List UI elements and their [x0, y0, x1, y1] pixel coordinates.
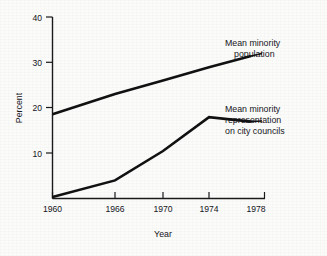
y-tick-label-10: 10 — [32, 149, 42, 159]
y-tick-label-40: 40 — [32, 13, 42, 23]
y-tick-label-30: 30 — [32, 58, 42, 68]
population-annotation-line-2: population — [234, 49, 275, 59]
council-annotation-line-3: on city councils — [225, 126, 285, 136]
y-axis-title: Percent — [14, 92, 24, 123]
council-annotation-line-1: Mean minority — [225, 104, 281, 114]
x-tick-label-1960: 1960 — [43, 204, 62, 214]
y-tick-label-20: 20 — [32, 103, 42, 113]
x-tick-label-1970: 1970 — [153, 204, 172, 214]
chart-svg: 40 30 20 10 1960 1966 1970 1974 1978 Yea… — [0, 0, 327, 256]
x-tick-label-1974: 1974 — [199, 204, 218, 214]
population-annotation-line-1: Mean minority — [225, 38, 281, 48]
line-chart: 40 30 20 10 1960 1966 1970 1974 1978 Yea… — [0, 0, 327, 256]
council-annotation-line-2: representation — [225, 115, 281, 125]
x-tick-label-1966: 1966 — [105, 204, 124, 214]
x-axis-title: Year — [154, 229, 172, 239]
x-tick-label-1978: 1978 — [246, 204, 265, 214]
